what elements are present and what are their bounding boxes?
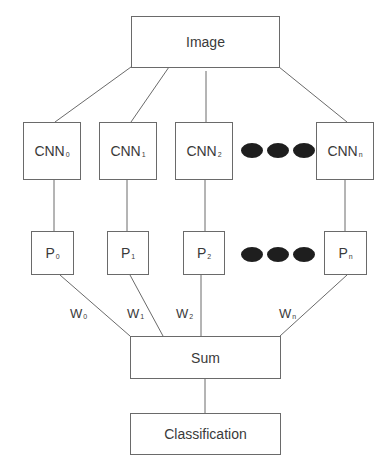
cnn-label: CNN1 xyxy=(110,143,145,159)
ellipsis-dot-icon xyxy=(293,247,315,262)
sum-label: Sum xyxy=(191,350,220,366)
cnn-box-0: CNN0 xyxy=(23,122,81,180)
prediction-label: Pn xyxy=(338,245,352,261)
weight-label-2: W2 xyxy=(176,306,193,321)
ellipsis-dot-icon xyxy=(241,143,263,158)
prediction-label: P0 xyxy=(45,245,59,261)
cnn-label: CNN0 xyxy=(34,143,69,159)
cnn-label: CNN2 xyxy=(186,143,221,159)
weight-label-0: W0 xyxy=(70,306,87,321)
image-label: Image xyxy=(186,34,225,50)
image-input-box: Image xyxy=(131,16,280,68)
ellipsis-dot-icon xyxy=(241,247,263,262)
prediction-box-2: P2 xyxy=(183,231,225,275)
ellipsis-dot-icon xyxy=(293,143,315,158)
ellipsis-dot-icon xyxy=(267,143,289,158)
prediction-label: P2 xyxy=(197,245,211,261)
prediction-box-1: P1 xyxy=(107,231,149,275)
cnn-box-1: CNN1 xyxy=(99,122,157,180)
cnn-box-n: CNNn xyxy=(316,122,374,180)
prediction-box-0: P0 xyxy=(31,231,74,275)
ellipsis-dot-icon xyxy=(267,247,289,262)
prediction-label: P1 xyxy=(121,245,135,261)
classification-box: Classification xyxy=(130,413,281,455)
weight-label-n: Wn xyxy=(279,306,296,321)
cnn-label: CNNn xyxy=(327,143,362,159)
sum-box: Sum xyxy=(130,336,281,379)
cnn-box-2: CNN2 xyxy=(175,122,233,180)
prediction-box-n: Pn xyxy=(324,231,367,275)
weight-label-1: W1 xyxy=(127,306,144,321)
classification-label: Classification xyxy=(164,426,246,442)
